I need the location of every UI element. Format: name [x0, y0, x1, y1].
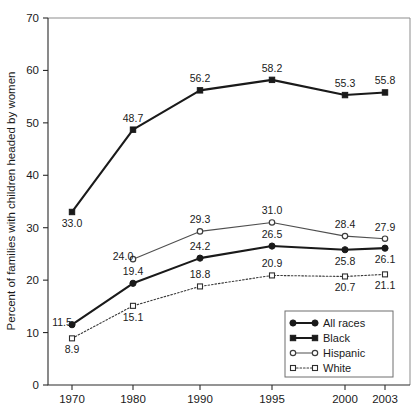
data-point-label-allraces: 26.5	[262, 228, 283, 240]
data-point-label-allraces: 19.4	[123, 265, 144, 277]
data-point-label-black: 55.3	[335, 77, 356, 89]
x-tick-label: 1980	[120, 393, 146, 405]
data-point-marker-allraces	[197, 255, 203, 261]
data-point-marker-white	[270, 273, 275, 278]
data-point-label-white: 8.9	[65, 343, 80, 355]
legend-marker-hispanic	[312, 350, 317, 355]
x-tick-label: 1990	[187, 393, 213, 405]
x-tick-label: 2003	[372, 393, 398, 405]
chart-figure: 010203040506070 197019801990199520002003…	[0, 0, 418, 420]
legend-marker-white	[291, 366, 296, 371]
data-point-marker-black	[197, 88, 202, 93]
data-point-marker-black	[382, 90, 387, 95]
legend-marker-white	[313, 366, 318, 371]
legend-marker-allraces	[290, 320, 296, 326]
legend-marker-black	[312, 335, 317, 340]
data-point-marker-black	[342, 92, 347, 97]
data-point-marker-hispanic	[197, 229, 202, 234]
data-point-label-hispanic: 24.0	[113, 250, 134, 262]
data-point-marker-white	[383, 272, 388, 277]
data-point-label-black: 55.8	[375, 74, 396, 86]
y-tick-label: 50	[26, 117, 39, 129]
data-point-label-allraces: 24.2	[190, 240, 211, 252]
data-point-marker-allraces	[130, 280, 136, 286]
y-axis-title: Percent of families with children headed…	[5, 72, 17, 331]
data-point-marker-black	[130, 127, 135, 132]
legend-marker-allraces	[312, 320, 318, 326]
legend-label-hispanic: Hispanic	[323, 347, 366, 359]
data-point-marker-white	[198, 284, 203, 289]
data-point-label-allraces: 25.8	[335, 255, 356, 267]
data-point-label-white: 18.8	[190, 268, 211, 280]
x-tick-label: 2000	[332, 393, 358, 405]
data-point-label-allraces: 11.5	[52, 316, 72, 328]
x-tick-label: 1995	[259, 393, 285, 405]
data-point-label-white: 21.1	[375, 279, 396, 291]
data-point-marker-allraces	[382, 245, 388, 251]
y-tick-label: 70	[26, 12, 39, 24]
line-chart-canvas: 010203040506070 197019801990199520002003…	[0, 0, 418, 420]
y-tick-label: 10	[26, 327, 39, 339]
legend-label-white: White	[323, 362, 351, 374]
data-point-label-black: 58.2	[262, 62, 283, 74]
data-point-marker-hispanic	[382, 236, 387, 241]
data-point-label-black: 33.0	[62, 217, 83, 229]
y-tick-label: 60	[26, 64, 39, 76]
y-tick-label: 40	[26, 169, 39, 181]
data-point-marker-hispanic	[269, 220, 274, 225]
data-point-label-black: 56.2	[190, 72, 211, 84]
data-point-label-hispanic: 28.4	[335, 218, 356, 230]
data-point-marker-allraces	[269, 243, 275, 249]
data-point-label-allraces: 26.1	[375, 253, 396, 265]
data-point-marker-white	[131, 303, 136, 308]
data-point-label-hispanic: 31.0	[262, 204, 283, 216]
legend-label-black: Black	[323, 332, 350, 344]
data-point-marker-white	[70, 336, 75, 341]
data-point-label-hispanic: 29.3	[190, 213, 211, 225]
data-point-label-white: 20.7	[335, 281, 356, 293]
legend-marker-hispanic	[290, 350, 295, 355]
data-point-marker-allraces	[342, 247, 348, 253]
data-point-label-white: 15.1	[123, 311, 144, 323]
data-point-marker-hispanic	[342, 233, 347, 238]
legend-label-allraces: All races	[323, 317, 366, 329]
data-point-marker-black	[69, 209, 74, 214]
chart-legend: All racesBlackHispanicWhite	[285, 311, 393, 377]
y-tick-label: 20	[26, 274, 39, 286]
data-point-label-white: 20.9	[262, 257, 283, 269]
data-point-label-black: 48.7	[123, 112, 144, 124]
data-point-marker-white	[343, 274, 348, 279]
data-point-label-hispanic: 27.9	[375, 221, 396, 233]
data-point-marker-black	[269, 77, 274, 82]
x-tick-label: 1970	[59, 393, 85, 405]
y-tick-label: 30	[26, 222, 39, 234]
legend-marker-black	[290, 335, 295, 340]
y-tick-label: 0	[33, 379, 39, 391]
